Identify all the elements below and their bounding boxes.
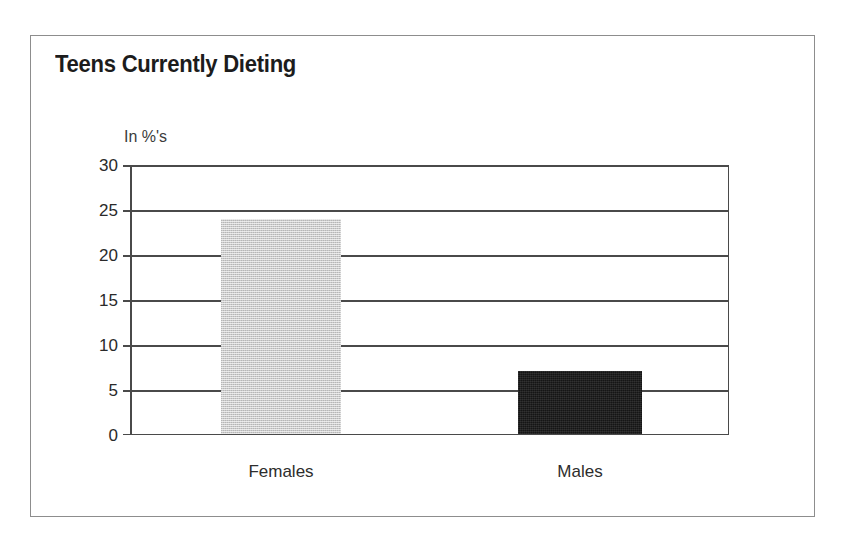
y-tick-label-5: 5 <box>109 382 118 399</box>
chart-figure: Teens Currently Dieting In %'s 30 25 20 … <box>0 0 842 545</box>
y-tick-mark-10 <box>123 345 130 347</box>
gridline-30 <box>130 165 729 167</box>
y-tick-mark-20 <box>123 255 130 257</box>
gridline-25 <box>130 210 729 212</box>
category-label-males: Males <box>460 462 700 482</box>
chart-title: Teens Currently Dieting <box>55 50 296 78</box>
y-tick-label-0: 0 <box>109 427 118 444</box>
y-axis-unit-label: In %'s <box>124 128 167 146</box>
y-tick-label-20: 20 <box>99 247 118 264</box>
y-tick-label-10: 10 <box>99 337 118 354</box>
y-tick-mark-30 <box>123 165 130 167</box>
gridline-10 <box>130 345 729 347</box>
x-axis-line <box>130 434 729 436</box>
gridline-15 <box>130 300 729 302</box>
gridline-20 <box>130 255 729 257</box>
y-tick-mark-0 <box>123 434 130 436</box>
y-tick-mark-25 <box>123 210 130 212</box>
category-label-females: Females <box>161 462 401 482</box>
y-tick-label-30: 30 <box>99 157 118 174</box>
y-tick-label-15: 15 <box>99 292 118 309</box>
y-tick-mark-5 <box>123 390 130 392</box>
y-tick-label-25: 25 <box>99 202 118 219</box>
y-axis-tick-labels: 30 25 20 15 10 5 0 <box>78 165 118 435</box>
plot-area <box>130 165 729 435</box>
bar-females <box>221 219 341 434</box>
bar-males <box>518 371 642 434</box>
y-tick-mark-15 <box>123 300 130 302</box>
